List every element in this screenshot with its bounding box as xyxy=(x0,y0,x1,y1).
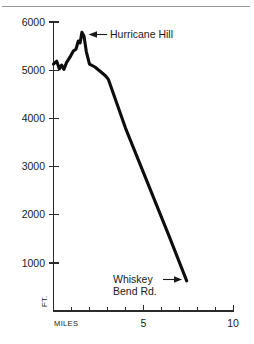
annotation-whiskey-bend-rd: Whiskey Bend Rd. xyxy=(113,273,182,297)
y-tick-label-5000: 5000 xyxy=(22,64,46,76)
y-tick-label-3000: 3000 xyxy=(22,160,46,172)
x-tick-label-10: 10 xyxy=(227,317,239,329)
y-tick-label-1000: 1000 xyxy=(22,257,46,269)
y-tick-label-4000: 4000 xyxy=(22,112,46,124)
y-axis-unit-label: FT. xyxy=(40,296,49,307)
whiskey-bend-label-line1: Whiskey xyxy=(113,273,153,285)
y-tick-label-6000: 6000 xyxy=(22,16,46,28)
hurricane-hill-arrow-head xyxy=(89,31,98,38)
whiskey-bend-label-line2: Bend Rd. xyxy=(113,285,157,297)
elevation-profile-chart: 6000 5000 4000 3000 2000 1000 5 10 MILES… xyxy=(0,0,254,344)
x-axis-unit-label: MILES xyxy=(54,319,78,328)
hurricane-hill-label: Hurricane Hill xyxy=(110,28,173,40)
elevation-profile-figure: 6000 5000 4000 3000 2000 1000 5 10 MILES… xyxy=(0,0,254,344)
x-tick-label-5: 5 xyxy=(141,317,147,329)
annotation-hurricane-hill: Hurricane Hill xyxy=(89,28,174,40)
elevation-profile-line xyxy=(54,32,187,281)
y-tick-label-2000: 2000 xyxy=(22,208,46,220)
whiskey-bend-arrow-head xyxy=(174,276,182,282)
